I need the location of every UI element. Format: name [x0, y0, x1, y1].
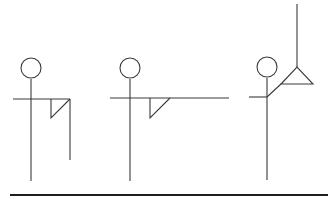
flag [51, 99, 70, 118]
head [120, 58, 140, 78]
triangle [281, 67, 313, 84]
diagram-canvas [0, 0, 328, 199]
figure-3 [249, 4, 313, 180]
head [257, 57, 277, 77]
figure-1 [13, 58, 70, 181]
figure-2 [110, 58, 229, 181]
head [21, 58, 41, 78]
reach-arm [267, 84, 281, 97]
flag [150, 98, 170, 118]
